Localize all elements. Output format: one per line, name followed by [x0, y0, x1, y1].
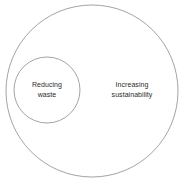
diagram-canvas: Increasing sustainability Reducing waste [0, 0, 185, 184]
outer-set-label-line-2: sustainability [95, 90, 169, 100]
outer-set-label: Increasing sustainability [95, 80, 169, 99]
inner-set-label: Reducing waste [14, 80, 80, 99]
inner-set-label-line-1: Reducing [14, 80, 80, 90]
outer-set-label-line-1: Increasing [95, 80, 169, 90]
inner-set-label-line-2: waste [14, 90, 80, 100]
